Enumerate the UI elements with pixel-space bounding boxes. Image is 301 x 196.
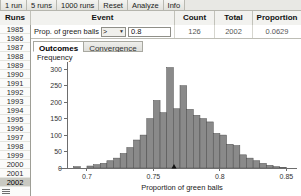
event-proportion-value: 0.0629 [253, 25, 301, 38]
y-tick-label: 150 [50, 115, 62, 122]
runs-row[interactable]: 1986 [0, 34, 30, 43]
threshold-input[interactable] [128, 27, 171, 37]
x-tick-label: 0.7 [82, 173, 92, 180]
x-tick-label: 0.75 [147, 173, 161, 180]
histogram-bar [127, 148, 134, 168]
column-header-proportion: Proportion [253, 11, 301, 25]
run-1-button[interactable]: 1 run [0, 0, 27, 10]
runs-row[interactable]: 1999 [0, 151, 30, 160]
histogram-bar [114, 158, 121, 168]
runs-column[interactable]: 1985198619871988198919901991199219931994… [0, 25, 31, 196]
x-tick-label: 0.8 [215, 173, 225, 180]
histogram-bar [153, 101, 160, 168]
tab-outcomes[interactable]: Outcomes [33, 41, 84, 52]
event-cell: Prop. of green balls > ▼ [31, 25, 175, 38]
column-header-runs: Runs [0, 11, 31, 25]
histogram-bar [187, 109, 194, 168]
run-1000-button[interactable]: 1000 runs [57, 0, 99, 10]
histogram-bar [253, 161, 260, 168]
y-tick-label: 200 [50, 99, 62, 106]
y-tick-label: 50 [54, 148, 62, 155]
histogram-bar [107, 161, 114, 168]
toolbar-filler [185, 0, 301, 10]
event-label: Prop. of green balls [34, 27, 99, 36]
histogram-bar [227, 144, 234, 168]
runs-row[interactable]: 2002 [0, 178, 30, 187]
tab-convergence[interactable]: Convergence [83, 41, 143, 52]
runs-row[interactable]: 1993 [0, 97, 30, 106]
runs-row[interactable]: 1991 [0, 79, 30, 88]
histogram-bar [246, 158, 253, 168]
column-header-event: Event [31, 11, 175, 25]
histogram-bar [133, 140, 140, 168]
histogram-bar [160, 113, 167, 168]
histogram-bar [260, 163, 267, 168]
histogram-bar [220, 135, 227, 168]
resize-handle-icon[interactable] [2, 189, 10, 195]
histogram-bar [193, 115, 200, 168]
column-header-total: Total [215, 11, 253, 25]
runs-row[interactable]: 2000 [0, 160, 30, 169]
column-header-count: Count [175, 11, 215, 25]
histogram-bar [167, 68, 174, 168]
runs-row[interactable]: 1990 [0, 70, 30, 79]
runs-row[interactable]: 2001 [0, 169, 30, 178]
x-tick-label: 0.85 [280, 173, 294, 180]
runs-row[interactable]: 1985 [0, 25, 30, 34]
event-row: Prop. of green balls > ▼ 126 2002 0.0629 [31, 25, 301, 39]
runs-row[interactable]: 1989 [0, 61, 30, 70]
histogram-bar [200, 119, 207, 168]
info-button[interactable]: Info [164, 0, 186, 10]
runs-row[interactable]: 1998 [0, 142, 30, 151]
operator-value: > [103, 27, 107, 37]
runs-row[interactable]: 1996 [0, 124, 30, 133]
runs-row[interactable]: 1988 [0, 52, 30, 61]
histogram-bar [120, 154, 127, 168]
runs-row[interactable]: 1994 [0, 106, 30, 115]
tab-bar: Outcomes Convergence [33, 41, 143, 52]
runs-row[interactable]: 1997 [0, 133, 30, 142]
histogram-bar [180, 86, 187, 168]
stat-simulation-window: 1 run 5 runs 1000 runs Reset Analyze Inf… [0, 0, 301, 196]
runs-row[interactable]: 1987 [0, 43, 30, 52]
histogram-bar [233, 146, 240, 168]
event-count-value: 126 [175, 25, 215, 38]
histogram-bar [240, 155, 247, 168]
x-axis-label: Proportion of green balls [141, 183, 223, 192]
histogram-bar [140, 135, 147, 168]
histogram-bar [207, 122, 214, 168]
runs-row[interactable]: 1995 [0, 115, 30, 124]
histogram-panel: Frequency0501001502002503000.70.750.80.8… [31, 52, 301, 196]
y-tick-label: 300 [50, 66, 62, 73]
toolbar: 1 run 5 runs 1000 runs Reset Analyze Inf… [0, 0, 301, 11]
histogram-chart: Frequency0501001502002503000.70.750.80.8… [31, 52, 301, 196]
reset-button[interactable]: Reset [99, 0, 128, 10]
runs-row[interactable]: 1992 [0, 88, 30, 97]
histogram-bar [173, 109, 180, 168]
table-header: Runs Event Count Total Proportion [0, 11, 301, 25]
event-total-value: 2002 [215, 25, 253, 38]
chevron-down-icon: ▼ [119, 29, 124, 34]
histogram-bar [100, 163, 107, 168]
histogram-bar [147, 119, 154, 168]
operator-select[interactable]: > ▼ [101, 27, 126, 37]
y-tick-label: 100 [50, 132, 62, 139]
run-5-button[interactable]: 5 runs [27, 0, 57, 10]
analyze-button[interactable]: Analyze [128, 0, 164, 10]
y-tick-label: 250 [50, 82, 62, 89]
y-axis-label: Frequency [37, 53, 73, 62]
histogram-bar [213, 133, 220, 168]
